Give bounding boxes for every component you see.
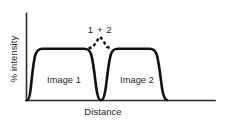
intensity-profile-figure: 1 + 2 Image 1 Image 2 Distance % intensi…: [0, 0, 226, 122]
curve-sum-1-plus-2: [89, 37, 113, 49]
axis-group: [26, 14, 215, 101]
y-axis-label: % intensity: [8, 36, 19, 83]
x-axis-label: Distance: [84, 106, 121, 117]
figure-canvas: 1 + 2 Image 1 Image 2 Distance % intensi…: [0, 0, 226, 122]
label-image-1: Image 1: [47, 75, 81, 85]
label-image-2: Image 2: [120, 75, 154, 85]
label-sum-peak: 1 + 2: [88, 24, 113, 35]
